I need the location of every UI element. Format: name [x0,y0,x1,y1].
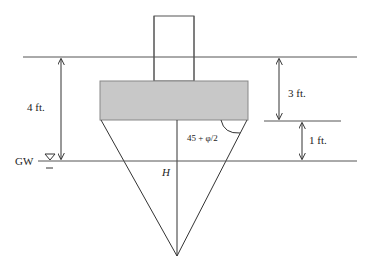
label-3ft: 3 ft. [288,87,306,99]
label-groundwater: GW [15,155,34,167]
water-table-icon [45,154,55,160]
wedge-left-edge [101,120,177,256]
label-4ft: 4 ft. [27,101,45,113]
footing [100,81,248,120]
footing-diagram: 4 ft. 3 ft. 1 ft. GW H 45 + φ/2 [0,0,374,269]
label-wedge-height: H [161,166,171,178]
label-1ft: 1 ft. [309,134,327,146]
label-wedge-angle: 45 + φ/2 [187,133,218,143]
column [154,16,194,81]
angle-arc [221,120,240,133]
